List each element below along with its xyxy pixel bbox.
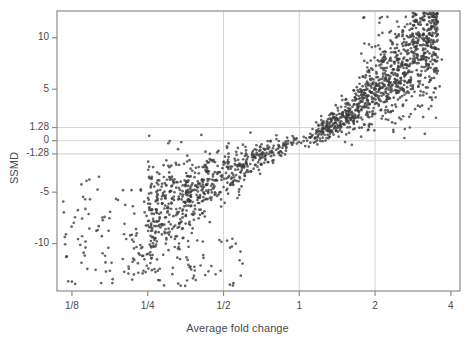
data-point xyxy=(252,159,255,162)
data-point xyxy=(148,207,151,210)
data-point xyxy=(169,223,172,226)
data-point xyxy=(155,240,158,243)
data-point xyxy=(382,51,385,54)
data-point xyxy=(172,195,175,198)
data-point xyxy=(436,39,439,42)
data-point xyxy=(142,255,145,258)
data-point xyxy=(332,113,335,116)
data-point xyxy=(322,131,325,134)
data-point xyxy=(196,239,199,242)
data-point xyxy=(309,141,312,144)
data-point xyxy=(159,189,162,192)
data-point xyxy=(429,60,432,63)
data-point xyxy=(404,128,407,131)
data-point xyxy=(178,242,181,245)
data-point xyxy=(167,142,170,145)
data-point xyxy=(238,188,241,191)
data-point xyxy=(65,233,68,236)
data-point xyxy=(170,164,173,167)
data-point xyxy=(430,28,433,31)
data-point xyxy=(360,94,363,97)
data-point xyxy=(344,141,347,144)
data-point xyxy=(361,105,364,108)
data-point xyxy=(417,80,420,83)
data-point xyxy=(147,160,150,163)
data-point xyxy=(208,178,211,181)
data-point xyxy=(417,59,420,62)
data-point xyxy=(237,168,240,171)
data-point xyxy=(344,105,347,108)
data-point xyxy=(373,129,376,132)
data-point xyxy=(388,97,391,100)
data-point xyxy=(211,182,214,185)
data-point xyxy=(415,48,418,51)
data-point xyxy=(238,164,241,167)
data-point xyxy=(330,118,333,121)
data-point xyxy=(94,268,97,271)
data-point xyxy=(390,59,393,62)
data-point xyxy=(418,83,421,86)
data-point xyxy=(124,204,127,207)
data-point xyxy=(440,58,443,61)
data-point xyxy=(163,223,166,226)
data-point xyxy=(369,79,372,82)
data-point xyxy=(364,83,367,86)
data-point xyxy=(255,144,258,147)
data-point xyxy=(412,84,415,87)
data-point xyxy=(166,211,169,214)
data-point xyxy=(190,204,193,207)
data-point xyxy=(196,199,199,202)
data-point xyxy=(179,218,182,221)
data-point xyxy=(204,150,207,153)
data-point xyxy=(357,103,360,106)
plot-canvas xyxy=(0,0,475,343)
data-point xyxy=(225,172,228,175)
data-point xyxy=(187,204,190,207)
data-point xyxy=(397,50,400,53)
data-point xyxy=(132,257,135,260)
data-point xyxy=(391,83,394,86)
data-point xyxy=(435,116,438,119)
data-point xyxy=(191,213,194,216)
data-point xyxy=(101,216,104,219)
data-point xyxy=(362,75,365,78)
data-point xyxy=(302,140,305,143)
data-point xyxy=(422,15,425,18)
data-point xyxy=(155,225,158,228)
data-point xyxy=(432,42,435,45)
data-point xyxy=(384,112,387,115)
data-point xyxy=(80,261,83,264)
data-point xyxy=(183,205,186,208)
data-point xyxy=(431,11,434,14)
data-point xyxy=(161,182,164,185)
data-point xyxy=(386,109,389,112)
data-point xyxy=(427,108,430,111)
data-point xyxy=(160,198,163,201)
data-point xyxy=(177,148,180,151)
data-point xyxy=(416,42,419,45)
data-point xyxy=(379,17,382,20)
data-point xyxy=(380,60,383,63)
data-point xyxy=(188,175,191,178)
data-point xyxy=(156,212,159,215)
data-point xyxy=(150,257,153,260)
data-point xyxy=(181,190,184,193)
data-point xyxy=(316,139,319,142)
data-point xyxy=(326,129,329,132)
data-point xyxy=(179,207,182,210)
data-point xyxy=(427,57,430,60)
data-point xyxy=(177,186,180,189)
data-point xyxy=(191,227,194,230)
data-point xyxy=(385,106,388,109)
data-point xyxy=(203,185,206,188)
data-point xyxy=(131,261,134,264)
data-point xyxy=(404,25,407,28)
data-point xyxy=(405,99,408,102)
data-point xyxy=(294,138,297,141)
data-point xyxy=(391,104,394,107)
data-point xyxy=(432,91,435,94)
data-point xyxy=(226,187,229,190)
data-point xyxy=(145,224,148,227)
data-point xyxy=(411,50,414,53)
data-point xyxy=(275,134,278,137)
